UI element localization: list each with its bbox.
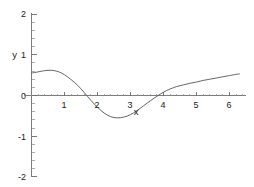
y-tick-label-neg2: -2 — [18, 172, 26, 182]
x-tick-label-1: 1 — [61, 100, 66, 110]
x-tick-label-4: 4 — [160, 100, 165, 110]
chart-figure: 2 1 0 -1 -2 y 1 2 3 4 5 6 x — [0, 0, 254, 187]
x-tick-label-3: 3 — [127, 100, 132, 110]
y-tick-label-0: 0 — [21, 91, 26, 101]
y-axis-title: y — [12, 49, 17, 60]
x-tick-label-6: 6 — [226, 100, 231, 110]
y-tick-label-2: 2 — [21, 9, 26, 19]
y-tick-label-1: 1 — [21, 50, 26, 60]
y-tick-label-neg1: -1 — [18, 132, 26, 142]
x-axis-major-ticks — [65, 92, 230, 96]
x-tick-label-5: 5 — [193, 100, 198, 110]
axes-group — [26, 13, 246, 177]
x-tick-label-2: 2 — [94, 100, 99, 110]
x-axis-title: x — [134, 106, 139, 117]
plot-canvas: 2 1 0 -1 -2 y 1 2 3 4 5 6 x — [0, 0, 254, 187]
